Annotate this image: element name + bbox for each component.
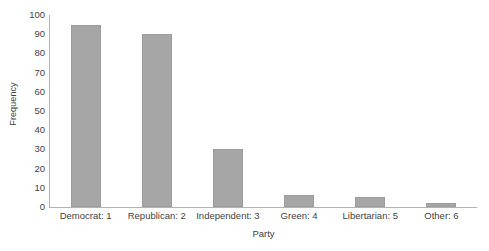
y-axis-tick: 0 <box>21 202 45 212</box>
y-axis-title-label: Frequency <box>8 82 18 125</box>
bar-slot <box>50 15 121 207</box>
x-axis-tick: Other: 6 <box>406 209 477 224</box>
plot-area <box>49 15 477 207</box>
bar <box>142 34 172 207</box>
bar-series <box>50 15 477 207</box>
bar-slot <box>406 15 477 207</box>
bar-slot <box>192 15 263 207</box>
y-axis-tick: 20 <box>21 164 45 174</box>
y-axis-tick: 10 <box>21 183 45 193</box>
x-axis-tick: Libertarian: 5 <box>335 209 406 224</box>
x-axis-tick: Democrat: 1 <box>50 209 121 224</box>
bar-slot <box>264 15 335 207</box>
bar-slot <box>335 15 406 207</box>
x-axis-tick: Independent: 3 <box>192 209 263 224</box>
x-axis-tick: Green: 4 <box>264 209 335 224</box>
x-axis-tick-labels: Democrat: 1Republican: 2Independent: 3Gr… <box>50 209 477 224</box>
x-axis-tick: Republican: 2 <box>121 209 192 224</box>
y-axis-tick: 40 <box>21 125 45 135</box>
bar-slot <box>121 15 192 207</box>
y-axis-tick: 50 <box>21 106 45 116</box>
bar <box>426 203 456 207</box>
y-axis-tick: 30 <box>21 144 45 154</box>
y-axis-tick: 80 <box>21 48 45 58</box>
x-axis-line <box>49 207 477 208</box>
bar <box>71 25 101 207</box>
y-axis-tick-labels: 1009080706050403020100 <box>22 8 48 207</box>
y-axis-tick: 100 <box>21 10 45 20</box>
bar <box>355 197 385 207</box>
y-axis-tick: 70 <box>21 68 45 78</box>
bar <box>213 149 243 207</box>
bar <box>284 195 314 207</box>
y-axis-tick: 90 <box>21 29 45 39</box>
bar-chart: Frequency 1009080706050403020100 Democra… <box>0 0 489 251</box>
y-axis-tick: 60 <box>21 87 45 97</box>
x-axis-title: Party <box>50 228 477 239</box>
